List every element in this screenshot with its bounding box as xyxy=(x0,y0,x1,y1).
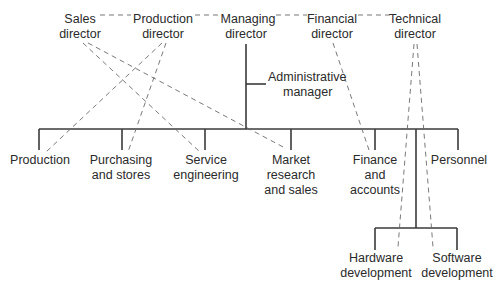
dept-market-label-3: and sales xyxy=(264,183,318,197)
dept-purchasing-label-2: and stores xyxy=(92,168,150,182)
technical-director-label-2: director xyxy=(394,27,436,41)
dept-production: Production xyxy=(10,153,70,167)
functional-link-financial-finance xyxy=(333,43,370,153)
dept-finance-label-1: Finance xyxy=(353,153,398,167)
dept-hardware: Hardware development xyxy=(340,251,412,280)
dept-market-label-2: research xyxy=(267,168,316,182)
dept-software: Software development xyxy=(421,251,493,280)
functional-link-production-purchasing xyxy=(128,43,166,152)
dept-personnel: Personnel xyxy=(431,153,487,167)
sales-director-label-1: Sales xyxy=(64,12,95,26)
managing-director: Managing director xyxy=(221,12,276,41)
functional-link-technical-hardware xyxy=(398,44,414,247)
managing-director-label-1: Managing xyxy=(221,12,276,26)
financial-director: Financial director xyxy=(307,12,357,41)
dept-finance: Finance and accounts xyxy=(350,153,400,197)
managing-director-label-2: director xyxy=(225,27,267,41)
dept-finance-label-2: and xyxy=(365,168,386,182)
org-chart: Sales director Production director Manag… xyxy=(0,0,500,288)
dept-hardware-label-1: Hardware xyxy=(349,251,403,265)
dept-purchasing: Purchasing and stores xyxy=(90,153,153,182)
dept-service: Service engineering xyxy=(173,153,238,182)
dept-market-label-1: Market xyxy=(272,153,311,167)
dept-purchasing-label-1: Purchasing xyxy=(90,153,153,167)
dept-software-label-2: development xyxy=(421,266,493,280)
administrative-manager: Administrative manager xyxy=(268,70,347,99)
sales-director: Sales director xyxy=(59,12,101,41)
dept-service-label-2: engineering xyxy=(173,168,238,182)
functional-link-sales-market xyxy=(88,43,285,148)
dept-software-label-1: Software xyxy=(432,251,481,265)
functional-link-production-production xyxy=(46,43,162,152)
financial-director-label-2: director xyxy=(311,27,353,41)
dept-production-label: Production xyxy=(10,153,70,167)
technical-director-label-1: Technical xyxy=(389,12,441,26)
production-director-label-1: Production xyxy=(133,12,193,26)
dept-service-label-1: Service xyxy=(185,153,227,167)
dept-hardware-label-2: development xyxy=(340,266,412,280)
sales-director-label-2: director xyxy=(59,27,101,41)
functional-link-technical-software xyxy=(417,44,433,247)
functional-link-sales-service xyxy=(83,43,200,152)
dept-market: Market research and sales xyxy=(264,153,318,197)
technical-director: Technical director xyxy=(389,12,441,41)
financial-director-label-1: Financial xyxy=(307,12,357,26)
production-director-label-2: director xyxy=(142,27,184,41)
production-director: Production director xyxy=(133,12,193,41)
admin-manager-label-1: Administrative xyxy=(268,70,347,84)
dept-personnel-label: Personnel xyxy=(431,153,487,167)
admin-manager-label-2: manager xyxy=(283,85,332,99)
dept-finance-label-3: accounts xyxy=(350,183,400,197)
